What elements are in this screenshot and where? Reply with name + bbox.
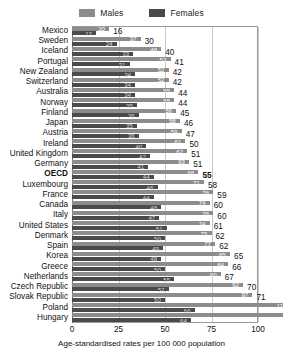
bar-row[interactable]: Sweden372430 [72,36,258,46]
bar-row[interactable]: Korea854865 [72,251,258,261]
bar-males[interactable]: 68 [72,170,198,174]
category-label: France [43,190,68,200]
bar-row[interactable]: Canada744860 [72,200,258,210]
total-value-label: 45 [180,109,189,118]
bar-females[interactable]: 51 [72,226,167,230]
bar-females[interactable]: 48 [72,257,161,261]
bar-males[interactable]: 48 [72,47,161,51]
segment-value-label: 74 [197,220,206,227]
bar-females[interactable]: 35 [72,124,137,128]
category-label: Finland [41,108,68,118]
bar-females[interactable]: 24 [72,42,117,46]
bar-males[interactable]: 76 [72,211,213,215]
category-label: Canada [39,200,68,210]
total-value-label: 42 [173,68,182,77]
bar-females[interactable]: 41 [72,165,148,169]
category-label: Czech Republic [11,282,68,292]
bar-males[interactable]: 71 [72,180,204,184]
bar-males[interactable]: 74 [72,221,210,225]
bar-row[interactable]: Germany634151 [72,159,258,169]
bar-males[interactable]: 52 [72,78,169,82]
bar-row[interactable]: Finland563645 [72,108,258,118]
bar-row[interactable]: Spain774962 [72,241,258,251]
bar-males[interactable]: 84 [72,262,228,266]
bar-row[interactable]: France764459 [72,190,258,200]
bar-males[interactable]: 61 [72,139,185,143]
bar-row[interactable]: Mexico201316 [72,26,258,36]
bar-row[interactable]: Portugal533141 [72,57,258,67]
bar-row[interactable]: OECD684455 [72,169,258,179]
bar-females[interactable]: 35 [72,103,137,107]
segment-value-label: 56 [163,107,172,114]
bar-females[interactable]: 40 [72,144,146,148]
segment-value-label: 76 [200,210,209,217]
bar-females[interactable]: 34 [72,83,135,87]
bar-females[interactable]: 36 [72,113,139,117]
bar-row[interactable]: United States745161 [72,221,258,231]
legend-swatch-females-icon [149,9,165,17]
bar-males[interactable]: 97 [72,293,252,297]
bar-males[interactable]: 74 [72,201,210,205]
legend-item-females[interactable]: Females [149,9,203,18]
bar-females[interactable]: 55 [72,277,174,281]
bar-females[interactable]: 33 [72,52,133,56]
x-tick-50: 50 [160,325,169,335]
bar-row[interactable]: Denmark755062 [72,231,258,241]
category-label: Austria [43,128,68,138]
bar-females[interactable]: 48 [72,205,161,209]
bar-females[interactable]: 49 [72,246,163,250]
segment-value-label: 75 [199,230,208,237]
bar-row[interactable]: Slovak Republic975071 [72,292,258,302]
bar-females[interactable]: 44 [72,195,154,199]
bar-females[interactable]: 46 [72,185,158,189]
total-value-label: 55 [202,171,211,180]
bar-females[interactable]: 50 [72,236,165,240]
bar-row[interactable]: United Kingdom624251 [72,149,258,159]
x-axis: 0255075100 [72,325,258,337]
bar-row[interactable]: Hungary1286494 [72,313,258,323]
bar-females[interactable]: 34 [72,72,135,76]
bar-row[interactable]: Luxembourg714658 [72,180,258,190]
bar-females[interactable]: 13 [72,31,96,35]
bar-females[interactable]: 34 [72,93,135,97]
category-label: Australia [36,87,68,97]
bar-males[interactable]: 56 [72,109,176,113]
bar-females[interactable]: 31 [72,62,130,66]
x-axis-title: Age-standardised rates per 100 000 popul… [0,339,283,349]
bar-males[interactable]: 77 [72,242,215,246]
category-label: Portugal [38,57,69,67]
bar-females[interactable]: 44 [72,175,154,179]
segment-value-label: 48 [148,46,157,53]
category-label: Sweden [38,36,68,46]
bar-females[interactable]: 50 [72,267,165,271]
bar-row[interactable]: New Zealand523442 [72,67,258,77]
bar-row[interactable]: Ireland614050 [72,139,258,149]
total-value-label: 58 [208,181,217,190]
bar-males[interactable]: 52 [72,68,169,72]
bar-row[interactable]: Czech Republic925270 [72,282,258,292]
segment-value-label: 52 [156,66,165,73]
bar-females[interactable]: 66 [72,308,195,312]
total-value-label: 61 [214,222,223,231]
legend-swatch-males-icon [79,9,95,17]
bar-row[interactable]: Austria593647 [72,128,258,138]
bar-row[interactable]: Italy764760 [72,210,258,220]
bar-females[interactable]: 47 [72,216,159,220]
bar-row[interactable]: Poland1166689 [72,303,258,313]
bar-males[interactable]: 116 [72,303,283,307]
category-label: Switzerland [26,77,68,87]
bar-females[interactable]: 42 [72,154,150,158]
bar-females[interactable]: 64 [72,318,191,322]
segment-value-label: 85 [217,251,226,258]
bar-row[interactable]: Japan583546 [72,118,258,128]
bar-females[interactable]: 52 [72,287,169,291]
bar-males[interactable]: 63 [72,160,189,164]
bar-males[interactable]: 80 [72,272,221,276]
bar-males[interactable]: 62 [72,149,187,153]
legend-item-males[interactable]: Males [79,9,123,18]
bar-females[interactable]: 36 [72,134,139,138]
bar-males[interactable]: 75 [72,231,212,235]
bar-row[interactable]: Greece845066 [72,262,258,272]
bar-females[interactable]: 50 [72,298,165,302]
category-label: Hungary [37,313,68,323]
